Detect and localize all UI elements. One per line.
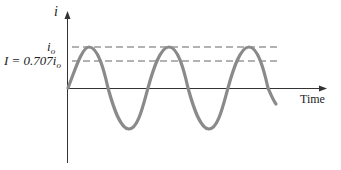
x-axis-label: Time <box>300 92 325 106</box>
y-axis-label: i <box>54 4 58 19</box>
rms-current-diagram: i io I = 0.707io Time <box>0 0 341 170</box>
y-axis-arrow-icon <box>65 11 71 19</box>
rms-label: I = 0.707io <box>3 53 61 70</box>
x-axis-arrow-icon <box>319 86 327 92</box>
